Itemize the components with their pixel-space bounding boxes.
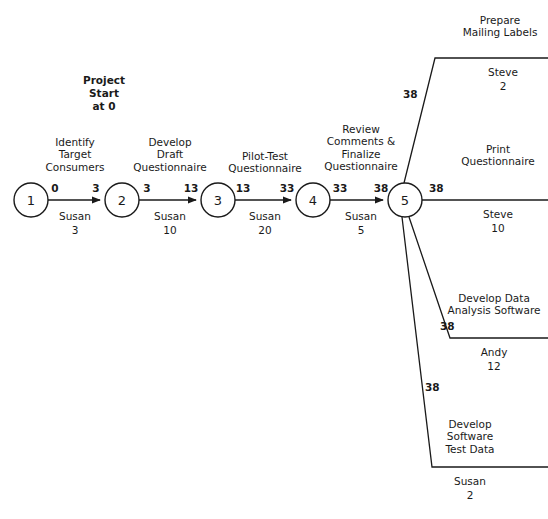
node-5-label: 5	[401, 193, 409, 208]
activity-early-start-pilot-test-questionnaire: 13	[236, 182, 251, 194]
activity-early-start-develop-data-analysis-software: 38	[440, 320, 455, 332]
activity-early-finish-pilot-test-questionnaire: 33	[280, 182, 295, 194]
node-1-label: 1	[27, 193, 35, 208]
node-4-label: 4	[309, 193, 317, 208]
activity-early-start-identify-target-consumers: 0	[51, 182, 58, 194]
activity-duration-prepare-mailing-labels: 2	[500, 80, 507, 92]
activity-name-develop-draft-questionnaire: Develop Draft Questionnaire	[133, 136, 207, 173]
node-3-label: 3	[214, 193, 222, 208]
project-start-note: Project Start at 0	[83, 74, 125, 113]
activity-resource-develop-data-analysis-software: Andy	[481, 346, 508, 358]
activity-early-start-print-questionnaire: 38	[429, 182, 444, 194]
activity-early-finish-develop-draft-questionnaire: 13	[184, 182, 199, 194]
activity-duration-identify-target-consumers: 3	[72, 224, 79, 236]
network-diagram: 1 2 3 4 5 Project Start at 0 Identify Ta…	[0, 0, 548, 519]
activity-resource-print-questionnaire: Steve	[483, 208, 513, 220]
activity-name-print-questionnaire: Print Questionnaire	[461, 143, 535, 168]
activity-resource-pilot-test-questionnaire: Susan	[249, 210, 281, 222]
activity-early-start-prepare-mailing-labels: 38	[403, 88, 418, 100]
activity-duration-review-comments: 5	[358, 224, 365, 236]
activity-resource-review-comments: Susan	[345, 210, 377, 222]
activity-early-start-develop-draft-questionnaire: 3	[143, 182, 150, 194]
activity-early-start-review-comments: 33	[333, 182, 348, 194]
edge-5-develop-data-analysis-software	[409, 217, 548, 338]
activity-early-finish-review-comments: 38	[374, 182, 389, 194]
activity-name-identify-target-consumers: Identify Target Consumers	[45, 136, 104, 173]
activity-duration-develop-data-analysis-software: 12	[487, 360, 500, 372]
activity-early-finish-identify-target-consumers: 3	[92, 182, 99, 194]
activity-resource-develop-software-test-data: Susan	[454, 475, 486, 487]
activity-resource-develop-draft-questionnaire: Susan	[154, 210, 186, 222]
activity-duration-print-questionnaire: 10	[491, 222, 504, 234]
activity-name-develop-data-analysis-software: Develop Data Analysis Software	[448, 292, 541, 317]
activity-name-review-comments-finalize-questionnaire: Review Comments & Finalize Questionnaire	[324, 123, 398, 173]
activity-resource-prepare-mailing-labels: Steve	[488, 66, 518, 78]
activity-name-pilot-test-questionnaire: Pilot-Test Questionnaire	[228, 150, 302, 175]
activity-resource-identify-target-consumers: Susan	[59, 210, 91, 222]
activity-name-develop-software-test-data: Develop Software Test Data	[445, 418, 494, 455]
activity-duration-pilot-test-questionnaire: 20	[258, 224, 271, 236]
node-2-label: 2	[118, 193, 126, 208]
activity-duration-develop-draft-questionnaire: 10	[163, 224, 176, 236]
activity-duration-develop-software-test-data: 2	[467, 489, 474, 501]
activity-early-start-develop-software-test-data: 38	[425, 381, 440, 393]
activity-name-prepare-mailing-labels: Prepare Mailing Labels	[463, 14, 538, 39]
